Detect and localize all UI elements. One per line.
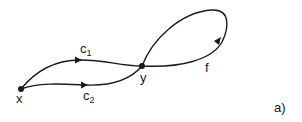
arrow-f-icon	[214, 37, 221, 45]
label-f: f	[205, 60, 209, 75]
path-diagram: x y c1 c2 f a)	[0, 0, 302, 122]
edge-f-loop	[142, 10, 227, 66]
arrow-c1-icon	[75, 57, 82, 64]
label-c2: c2	[83, 88, 95, 105]
label-x: x	[16, 91, 23, 106]
node-y	[139, 63, 145, 69]
label-c1-sub: 1	[87, 48, 92, 58]
label-c1: c1	[80, 41, 92, 58]
label-y: y	[140, 70, 147, 85]
panel-label: a)	[274, 100, 286, 115]
label-c2-sub: 2	[90, 95, 95, 105]
